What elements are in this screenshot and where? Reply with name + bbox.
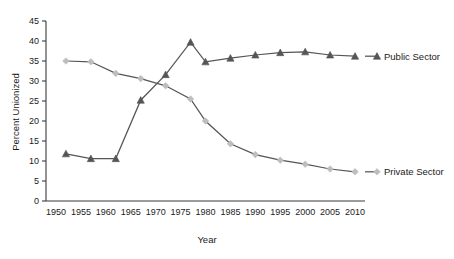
data-point-marker <box>327 166 334 173</box>
series-line <box>66 61 355 172</box>
y-axis-title: Percent Unionized <box>10 73 21 151</box>
data-point-marker <box>252 151 259 158</box>
data-point-marker <box>112 70 119 77</box>
data-series-group <box>62 39 358 176</box>
y-tick-label: 35 <box>29 56 39 66</box>
x-tick-label: 1980 <box>195 207 215 217</box>
x-tick-label: 2005 <box>320 207 340 217</box>
chart-container: 051015202530354045 195019551960196519701… <box>0 0 454 259</box>
x-tick-label: 1975 <box>171 207 191 217</box>
y-axis: 051015202530354045 <box>29 16 46 206</box>
x-tick-label: 1995 <box>270 207 290 217</box>
data-point-marker <box>62 150 69 157</box>
y-tick-label: 10 <box>29 156 39 166</box>
data-point-marker <box>302 161 309 168</box>
data-point-marker <box>63 58 70 65</box>
data-point-marker <box>137 75 144 82</box>
y-tick-label: 30 <box>29 76 39 86</box>
y-tick-label: 40 <box>29 36 39 46</box>
x-tick-label: 1970 <box>146 207 166 217</box>
x-tick-label: 1985 <box>220 207 240 217</box>
y-tick-label: 20 <box>29 116 39 126</box>
x-tick-label: 1955 <box>71 207 91 217</box>
y-tick-label: 5 <box>34 176 39 186</box>
legend-label: Public Sector <box>384 51 440 62</box>
data-point-marker <box>162 83 169 90</box>
y-tick-label: 25 <box>29 96 39 106</box>
x-tick-label: 2000 <box>295 207 315 217</box>
series-public-sector <box>62 39 358 162</box>
x-tick-label: 2010 <box>345 207 365 217</box>
data-point-marker <box>352 169 359 176</box>
data-point-marker <box>374 169 381 176</box>
y-tick-label: 15 <box>29 136 39 146</box>
y-tick-label: 0 <box>34 196 39 206</box>
y-tick-label: 45 <box>29 16 39 26</box>
data-point-marker <box>277 157 284 164</box>
x-axis: 1950195519601965197019751980198519901995… <box>46 201 365 217</box>
series-private-sector <box>63 58 359 175</box>
unionization-line-chart: 051015202530354045 195019551960196519701… <box>0 0 454 259</box>
x-tick-label: 1950 <box>46 207 66 217</box>
x-axis-title: Year <box>197 234 216 245</box>
series-line <box>66 42 355 158</box>
legend-item-private-sector: Private Sector <box>365 166 444 177</box>
data-point-marker <box>187 39 194 46</box>
x-tick-label: 1990 <box>245 207 265 217</box>
x-tick-label: 1960 <box>96 207 116 217</box>
x-tick-label: 1965 <box>121 207 141 217</box>
data-point-marker <box>88 59 95 66</box>
chart-legend: Public SectorPrivate Sector <box>365 51 444 178</box>
legend-label: Private Sector <box>384 166 444 177</box>
legend-item-public-sector: Public Sector <box>365 51 440 62</box>
